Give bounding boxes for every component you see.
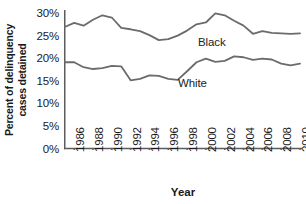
- x-tick-label-text: 1998: [187, 127, 199, 152]
- x-tick-label-text: 2006: [262, 127, 274, 152]
- x-tick-label-text: 1996: [168, 127, 180, 152]
- delinquency-detention-line-chart: Percent of delinquency cases detained 0%…: [0, 0, 306, 204]
- x-tick-label-text: 1988: [93, 127, 105, 152]
- x-tick-label-text: 1990: [112, 127, 124, 152]
- y-axis-tick-labels: 0%5%10%15%20%25%30%: [30, 0, 61, 160]
- y-axis-title-line-1: Percent of delinquency: [3, 24, 16, 136]
- x-tick-label-text: 1986: [74, 127, 86, 152]
- x-tick-label-text: 2000: [206, 127, 218, 152]
- y-tick-label-30: 30%: [37, 7, 59, 19]
- y-tick-label-25: 25%: [37, 30, 59, 42]
- x-tick-label-2010: 2010: [283, 152, 306, 186]
- x-tick-label-text: 2010: [300, 127, 306, 152]
- series-label-black: Black: [198, 36, 226, 48]
- x-tick-label-text: 1992: [131, 127, 143, 152]
- series-label-white: White: [178, 77, 207, 89]
- y-tick-label-10: 10%: [37, 97, 59, 109]
- x-axis-title: Year: [64, 186, 302, 198]
- y-axis-title-line-2: cases detained: [15, 24, 28, 136]
- x-tick-label-text: 1994: [149, 127, 161, 152]
- y-tick-label-20: 20%: [37, 52, 59, 64]
- x-axis-tick-labels: 1986198819901992199419961998200020022004…: [64, 152, 302, 186]
- x-tick-label-text: 2008: [281, 127, 293, 152]
- x-tick-label-text: 2002: [225, 127, 237, 152]
- x-tick-label-text: 2004: [244, 127, 256, 152]
- y-axis-title: Percent of delinquency cases detained: [0, 0, 30, 160]
- series-line-black: [65, 13, 300, 40]
- y-tick-label-15: 15%: [37, 75, 59, 87]
- series-lines: [65, 13, 300, 80]
- y-tick-label-5: 5%: [43, 120, 59, 132]
